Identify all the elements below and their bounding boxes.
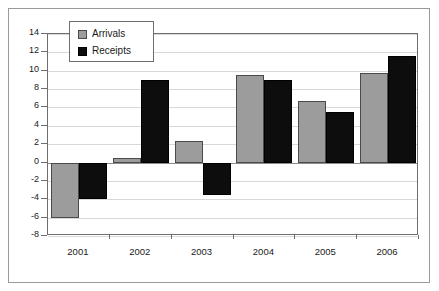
x-axis-tick-label: 2001 — [48, 246, 108, 257]
y-axis-tick-label: -2 — [8, 175, 39, 184]
y-axis-tick-label: -6 — [8, 212, 39, 221]
legend-label-arrivals: Arrivals — [92, 29, 125, 39]
y-axis-tick-label: -8 — [8, 230, 39, 239]
bar-arrivals-2002 — [113, 158, 141, 163]
legend-swatch-arrivals-icon — [78, 30, 87, 39]
legend-item-receipts: Receipts — [78, 43, 153, 59]
x-axis-tick-mark — [171, 235, 172, 239]
chart-legend: Arrivals Receipts — [69, 21, 154, 62]
gridline — [48, 199, 417, 200]
y-axis-tick-label: 10 — [8, 65, 39, 74]
y-axis-tick-label: 2 — [8, 138, 39, 147]
gridline — [48, 218, 417, 219]
x-axis-tick-mark — [356, 235, 357, 239]
bar-receipts-2004 — [264, 80, 292, 163]
chart-screenshot: 14121086420-2-4-6-8 20012002200320042005… — [0, 0, 439, 291]
x-axis-tick-label: 2005 — [295, 246, 355, 257]
legend-swatch-receipts-icon — [78, 47, 87, 56]
bar-arrivals-2001 — [51, 163, 79, 218]
y-axis-tick-label: 12 — [8, 46, 39, 55]
bar-arrivals-2004 — [236, 75, 264, 162]
y-axis-tick-label: 0 — [8, 157, 39, 166]
x-axis-tick-mark — [233, 235, 234, 239]
bar-receipts-2005 — [326, 112, 354, 163]
y-axis-tick-label: 8 — [8, 83, 39, 92]
x-axis-tick-mark — [418, 235, 419, 239]
bar-arrivals-2006 — [360, 73, 388, 162]
y-axis-tick-label: 4 — [8, 120, 39, 129]
legend-label-receipts: Receipts — [92, 46, 131, 56]
bar-receipts-2006 — [388, 56, 416, 163]
y-axis-tick-label: 6 — [8, 101, 39, 110]
legend-item-arrivals: Arrivals — [78, 26, 153, 42]
x-axis-tick-label: 2003 — [172, 246, 232, 257]
x-axis-tick-label: 2002 — [110, 246, 170, 257]
y-axis-tick-label: 14 — [8, 28, 39, 37]
bar-receipts-2002 — [141, 80, 169, 163]
x-axis-tick-mark — [294, 235, 295, 239]
plot-area — [47, 33, 418, 235]
y-axis-tick-mark — [41, 235, 47, 236]
x-axis-tick-mark — [109, 235, 110, 239]
bar-receipts-2003 — [203, 163, 231, 195]
x-axis-tick-label: 2006 — [357, 246, 417, 257]
y-axis-tick-label: -4 — [8, 193, 39, 202]
x-axis-tick-label: 2004 — [233, 246, 293, 257]
bar-arrivals-2005 — [298, 101, 326, 163]
gridline — [48, 71, 417, 72]
bar-receipts-2001 — [79, 163, 107, 200]
bar-arrivals-2003 — [175, 141, 203, 163]
